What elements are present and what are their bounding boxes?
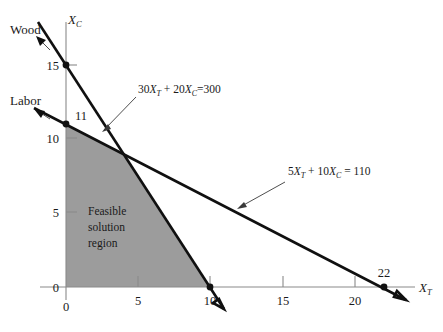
y-tick-label-10: 10: [47, 132, 60, 146]
labor-line-arrowhead: [394, 291, 406, 300]
region-label-line2: solution: [88, 221, 125, 233]
labor-label-arrowhead: [34, 109, 45, 118]
region-label-line3: region: [88, 237, 118, 250]
y-tick-label-0: 0: [53, 281, 59, 295]
point-wood-y-intercept: [63, 62, 70, 69]
graph-canvas: 15 10 5 0 0 5 10 15 20 11 22 XC XT Wood: [0, 0, 443, 332]
region-label-line1: Feasible: [88, 205, 126, 217]
labor-equation-label: 5XT + 10XC = 110: [288, 165, 371, 180]
point-label-11: 11: [75, 109, 87, 123]
linear-programming-graph: 15 10 5 0 0 5 10 15 20 11 22 XC XT Wood: [0, 0, 443, 332]
x-tick-label-20: 20: [349, 294, 362, 308]
labor-equation-arrowhead: [237, 202, 247, 209]
labor-equation-leader: [240, 182, 285, 207]
point-wood-x-intercept: [207, 284, 214, 291]
point-labor-x-intercept: [381, 284, 388, 291]
y-tick-label-15: 15: [47, 59, 60, 73]
wood-equation-label: 30XT + 20XC=300: [138, 83, 221, 98]
labor-label: Labor: [10, 93, 42, 108]
wood-equation-leader: [104, 97, 136, 130]
x-axis-label: XT: [418, 280, 433, 297]
point-labor-y-intercept: [63, 121, 70, 128]
point-label-22: 22: [378, 266, 391, 280]
x-tick-label-0: 0: [63, 300, 69, 314]
x-tick-label-15: 15: [277, 294, 290, 308]
y-tick-label-5: 5: [53, 206, 59, 220]
x-tick-label-5: 5: [135, 294, 141, 308]
wood-label: Wood: [10, 22, 41, 37]
y-axis-label: XC: [67, 12, 82, 29]
